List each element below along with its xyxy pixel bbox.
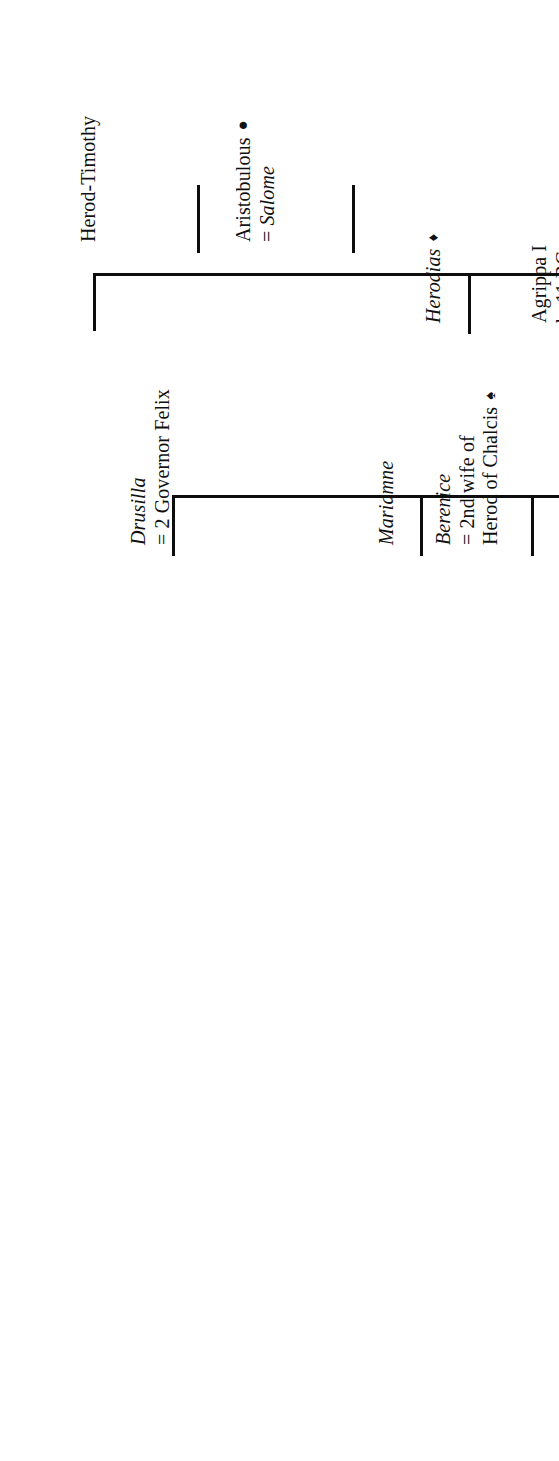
node-agrippa-i-name: Agrippa I (528, 23, 552, 323)
node-drusilla-name: Drusilla (127, 265, 151, 545)
bullet-icon: ● (233, 120, 252, 137)
connector-stub-aristobulous-salome (352, 185, 355, 253)
connector-branch-mariamne (420, 498, 423, 556)
node-berenice: Berenice = 2nd wife of Herod of Chalcis♠ (432, 265, 503, 545)
spade-icon: ♠ (482, 392, 498, 407)
node-aristobulous-salome-spouse-row: = Salome (256, 2, 280, 242)
node-berenice-name-text: Berenice (432, 474, 454, 545)
node-aristobulous-salome-spouse-prefix: = (256, 226, 278, 242)
family-tree-canvas: Herod of Chalcis♠ d. AD 48 Regent of Agr… (0, 0, 559, 1461)
node-aristobulous-salome-name-row: Aristobulous● (232, 2, 256, 242)
node-mariamne-name: Mariamne (375, 325, 399, 545)
node-drusilla: Drusilla = 2 Governor Felix (127, 265, 174, 545)
node-berenice-marriage: = 2nd wife of (456, 265, 480, 545)
node-aristobulous-salome-spouse: Salome (256, 166, 278, 225)
node-agrippa-i: Agrippa I b. 11 BC King of Judaea d. AD … (528, 23, 559, 323)
node-herod-timothy: Herod-Timothy (77, 2, 101, 242)
connector-root-stub (93, 275, 96, 331)
connector-stub-herod-timothy (197, 185, 200, 253)
diamond-icon: ♦ (425, 234, 441, 249)
node-herod-timothy-name: Herod-Timothy (77, 2, 101, 242)
node-berenice-name: Berenice (432, 265, 456, 545)
node-aristobulous-salome: Aristobulous● = Salome (232, 2, 279, 242)
node-agrippa-i-born: b. 11 BC (552, 23, 559, 323)
node-aristobulous-salome-name: Aristobulous (232, 137, 254, 242)
node-drusilla-marriage: = 2 Governor Felix (151, 265, 175, 545)
node-berenice-spouse-row: Herod of Chalcis♠ (479, 265, 503, 545)
node-berenice-spouse: Herod of Chalcis (479, 407, 501, 545)
node-mariamne: Mariamne (375, 325, 399, 545)
connector-branch-berenice (531, 498, 534, 556)
